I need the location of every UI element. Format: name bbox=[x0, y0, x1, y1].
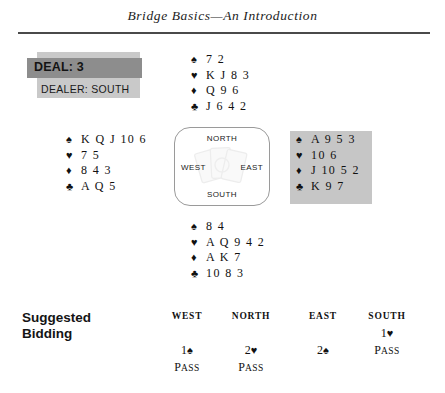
bidding-column-north: NORTH 2♥ PASS bbox=[219, 311, 283, 376]
heart-icon: ♥ bbox=[191, 235, 206, 251]
hand-east-diamonds-row: ♦ J 10 5 2 bbox=[296, 163, 360, 179]
hand-north-clubs: J 6 4 2 bbox=[206, 99, 247, 115]
diamond-icon: ♦ bbox=[191, 83, 206, 99]
club-icon: ♣ bbox=[191, 266, 206, 282]
bidding-cell-west-3: PASS bbox=[155, 359, 219, 376]
hand-south-diamonds-row: ♦ A K 7 bbox=[191, 250, 265, 266]
hand-south-hearts-row: ♥ A Q 9 4 2 bbox=[191, 235, 265, 251]
bid-suit-icon: ♥ bbox=[251, 344, 258, 356]
hand-north-hearts: K J 8 3 bbox=[206, 68, 250, 84]
compass-label-west: WEST bbox=[181, 162, 206, 171]
hand-west-diamonds-row: ♦ 8 4 3 bbox=[66, 163, 147, 179]
hand-south-spades: 8 4 bbox=[206, 219, 225, 235]
bidding-header-west: WEST bbox=[155, 311, 219, 325]
spade-icon: ♠ bbox=[191, 219, 206, 235]
bidding-column-west: WEST 1♠ PASS bbox=[155, 311, 219, 376]
hand-west-hearts-row: ♥ 7 5 bbox=[66, 148, 147, 164]
heart-icon: ♥ bbox=[66, 148, 81, 164]
compass-label-east: EAST bbox=[241, 162, 264, 171]
hand-east-diamonds: J 10 5 2 bbox=[311, 163, 360, 179]
heart-icon: ♥ bbox=[296, 148, 311, 164]
bidding-cell-east-2: 2♠ bbox=[291, 342, 355, 359]
hand-east-spades: A 9 5 3 bbox=[311, 132, 356, 148]
hand-south-clubs: 10 8 3 bbox=[206, 266, 244, 282]
club-icon: ♣ bbox=[296, 179, 311, 195]
hand-north-diamonds-row: ♦ Q 9 6 bbox=[191, 83, 250, 99]
hand-north-diamonds: Q 9 6 bbox=[206, 83, 240, 99]
bid-suit-icon: ♠ bbox=[187, 344, 193, 356]
bidding-header-east: EAST bbox=[291, 311, 355, 325]
compass-diagram: NORTH WEST EAST SOUTH bbox=[174, 127, 270, 206]
hand-north-hearts-row: ♥ K J 8 3 bbox=[191, 68, 250, 84]
suggested-bidding-line2: Bidding bbox=[22, 326, 142, 342]
diamond-icon: ♦ bbox=[66, 163, 81, 179]
hand-north-spades: 7 2 bbox=[206, 52, 225, 68]
club-icon: ♣ bbox=[66, 179, 81, 195]
compass-label-north: NORTH bbox=[207, 134, 237, 143]
hand-east-spades-row: ♠ A 9 5 3 bbox=[296, 132, 360, 148]
bidding-cell-south-2: PASS bbox=[355, 342, 419, 359]
bidding-cell-north-2: 2♥ bbox=[219, 342, 283, 359]
hand-east: ♠ A 9 5 3 ♥ 10 6 ♦ J 10 5 2 ♣ K 9 7 bbox=[296, 132, 360, 194]
hand-north-spades-row: ♠ 7 2 bbox=[191, 52, 250, 68]
hand-east-clubs-row: ♣ K 9 7 bbox=[296, 179, 360, 195]
compass-label-south: SOUTH bbox=[207, 190, 237, 199]
suggested-bidding-title: Suggested Bidding bbox=[22, 310, 142, 342]
hand-south-diamonds: A K 7 bbox=[206, 250, 242, 266]
dealer-label: DEALER: SOUTH bbox=[41, 83, 130, 95]
spade-icon: ♠ bbox=[191, 52, 206, 68]
suggested-bidding-line1: Suggested bbox=[22, 310, 142, 326]
bid-suit-icon: ♥ bbox=[387, 327, 394, 339]
hand-east-hearts: 10 6 bbox=[311, 148, 338, 164]
page-title: Bridge Basics—An Introduction bbox=[0, 8, 445, 24]
bidding-header-south: SOUTH bbox=[355, 311, 419, 325]
bidding-cell-south-1: 1♥ bbox=[355, 325, 419, 342]
hand-south-spades-row: ♠ 8 4 bbox=[191, 219, 265, 235]
bidding-cell-west-1 bbox=[155, 325, 219, 342]
hand-south: ♠ 8 4 ♥ A Q 9 4 2 ♦ A K 7 ♣ 10 8 3 bbox=[191, 219, 265, 281]
spade-icon: ♠ bbox=[296, 132, 311, 148]
bidding-column-south: SOUTH 1♥ PASS bbox=[355, 311, 419, 376]
hand-west: ♠ K Q J 10 6 ♥ 7 5 ♦ 8 4 3 ♣ A Q 5 bbox=[66, 132, 147, 194]
bidding-header-north: NORTH bbox=[219, 311, 283, 325]
hand-north: ♠ 7 2 ♥ K J 8 3 ♦ Q 9 6 ♣ J 6 4 2 bbox=[191, 52, 250, 114]
hand-east-clubs: K 9 7 bbox=[311, 179, 345, 195]
hand-west-spades: K Q J 10 6 bbox=[81, 132, 147, 148]
bidding-cell-east-3 bbox=[291, 359, 355, 376]
bid-suit-icon: ♠ bbox=[323, 344, 329, 356]
diamond-icon: ♦ bbox=[191, 250, 206, 266]
hand-north-clubs-row: ♣ J 6 4 2 bbox=[191, 99, 250, 115]
hand-west-spades-row: ♠ K Q J 10 6 bbox=[66, 132, 147, 148]
hand-west-clubs: A Q 5 bbox=[81, 179, 117, 195]
deal-number-label: DEAL: 3 bbox=[34, 60, 84, 74]
club-icon: ♣ bbox=[191, 99, 206, 115]
hand-west-diamonds: 8 4 3 bbox=[81, 163, 112, 179]
spade-icon: ♠ bbox=[66, 132, 81, 148]
hand-east-hearts-row: ♥ 10 6 bbox=[296, 148, 360, 164]
hand-west-hearts: 7 5 bbox=[81, 148, 100, 164]
diamond-icon: ♦ bbox=[296, 163, 311, 179]
bidding-cell-north-1 bbox=[219, 325, 283, 342]
heart-icon: ♥ bbox=[191, 68, 206, 84]
bidding-cell-north-3: PASS bbox=[219, 359, 283, 376]
bidding-column-east: EAST 2♠ bbox=[291, 311, 355, 376]
bidding-cell-south-3 bbox=[355, 359, 419, 376]
hand-south-hearts: A Q 9 4 2 bbox=[206, 235, 265, 251]
header-divider bbox=[18, 32, 430, 34]
bidding-cell-east-1 bbox=[291, 325, 355, 342]
bidding-cell-west-2: 1♠ bbox=[155, 342, 219, 359]
hand-west-clubs-row: ♣ A Q 5 bbox=[66, 179, 147, 195]
hand-south-clubs-row: ♣ 10 8 3 bbox=[191, 266, 265, 282]
